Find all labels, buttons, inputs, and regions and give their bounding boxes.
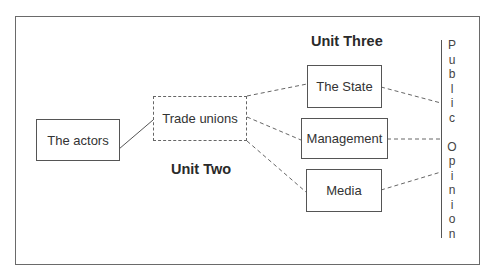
node-management: Management — [301, 118, 388, 159]
heading-unit-two: Unit Two — [171, 161, 231, 177]
node-the-state: The State — [307, 65, 382, 108]
node-label: Media — [326, 183, 361, 198]
heading-unit-three: Unit Three — [311, 33, 383, 49]
node-label: Trade unions — [162, 111, 237, 126]
letter: u — [449, 53, 456, 68]
node-the-actors: The actors — [36, 119, 120, 161]
letter: l — [451, 82, 454, 97]
node-media: Media — [306, 169, 382, 212]
node-label: Management — [307, 131, 383, 146]
letter: o — [449, 212, 456, 227]
letter: O — [447, 140, 456, 155]
letter: p — [449, 154, 456, 169]
letter: P — [448, 38, 456, 53]
node-trade-unions: Trade unions — [153, 96, 247, 141]
letter: c — [449, 111, 455, 126]
letter: n — [449, 227, 456, 242]
letter: i — [451, 96, 454, 111]
public-opinion-axis-line — [441, 40, 442, 238]
letter: b — [449, 67, 456, 82]
node-label: The State — [316, 79, 372, 94]
public-opinion-label: P u b l i c O p i n i o n — [446, 38, 458, 241]
node-label: The actors — [47, 133, 108, 148]
letter: n — [449, 183, 456, 198]
letter: i — [451, 169, 454, 184]
letter: i — [451, 198, 454, 213]
